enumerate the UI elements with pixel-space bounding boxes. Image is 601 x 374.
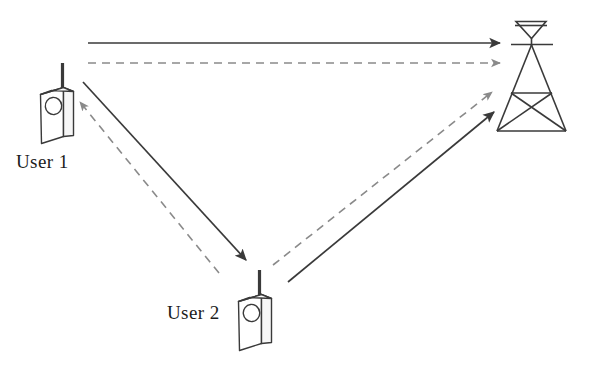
phone-front-face-user1 — [41, 88, 64, 144]
link-user2-to-tower-dashed — [273, 92, 492, 265]
diagram-canvas — [0, 0, 601, 374]
phone-side-face-user1 — [64, 88, 74, 137]
network-diagram: User 1 User 2 — [0, 0, 601, 374]
user2-label: User 2 — [167, 303, 220, 322]
mobile-phone-icon-user2 — [239, 270, 272, 351]
tower-leg-left — [497, 45, 532, 131]
link-user2-to-tower-solid — [288, 112, 494, 282]
link-user1-to-user2-solid — [83, 82, 246, 260]
tower-dish-icon — [516, 22, 546, 39]
phone-side-face-user2 — [262, 295, 272, 344]
mobile-phone-icon-user1 — [41, 63, 74, 144]
cell-tower-icon — [497, 22, 566, 132]
link-user2-to-user1-dashed — [80, 102, 219, 273]
user1-label: User 1 — [16, 152, 69, 171]
tower-leg-right — [532, 45, 567, 131]
phone-front-face-user2 — [239, 295, 262, 351]
link-layer — [80, 43, 500, 282]
